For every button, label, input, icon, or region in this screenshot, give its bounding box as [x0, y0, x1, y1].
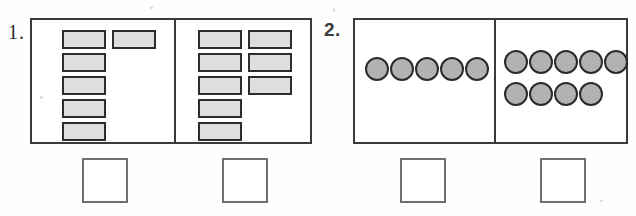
problem-1-answer-box-right[interactable]: [222, 158, 268, 203]
circle-counter: [465, 57, 489, 81]
problem-1-group-right: [176, 20, 310, 142]
rectangle-counter: [62, 99, 106, 118]
circle-counter: [390, 57, 414, 81]
circle-counter: [579, 82, 603, 106]
rectangle-counter: [198, 122, 242, 141]
circle-counter: [604, 50, 628, 74]
rectangle-counter: [248, 30, 292, 49]
rectangle-counter: [62, 122, 106, 141]
scan-speckle: [150, 6, 153, 9]
circle-counter: [529, 50, 553, 74]
problem-number-2: 2.: [324, 20, 341, 39]
rectangle-counter: [112, 30, 156, 49]
problem-2-frame: [353, 18, 628, 144]
worksheet-page: 1. 2.: [0, 0, 636, 216]
problem-1-group-left: [32, 20, 174, 142]
rectangle-counter: [198, 30, 242, 49]
problem-2-answer-box-left[interactable]: [400, 158, 446, 203]
rectangle-counter: [198, 53, 242, 72]
rectangle-counter: [62, 53, 106, 72]
circle-counter: [504, 82, 528, 106]
rectangle-counter: [62, 76, 106, 95]
circle-counter: [504, 50, 528, 74]
problem-1-frame: [30, 18, 312, 144]
rectangle-counter: [198, 76, 242, 95]
circle-counter: [415, 57, 439, 81]
scan-speckle: [333, 8, 335, 12]
circle-counter: [365, 57, 389, 81]
problem-number-1: 1.: [8, 22, 25, 42]
scan-speckle: [600, 200, 603, 202]
problem-2-group-left: [355, 20, 494, 142]
rectangle-counter: [62, 30, 106, 49]
circle-counter: [440, 57, 464, 81]
circle-counter: [554, 50, 578, 74]
rectangle-counter: [198, 99, 242, 118]
circle-counter: [529, 82, 553, 106]
circle-counter: [579, 50, 603, 74]
rectangle-counter: [248, 53, 292, 72]
circle-counter: [554, 82, 578, 106]
rectangle-counter: [248, 76, 292, 95]
problem-1-answer-box-left[interactable]: [82, 158, 128, 203]
problem-2-group-right: [496, 20, 626, 142]
problem-2-answer-box-right[interactable]: [540, 158, 586, 203]
